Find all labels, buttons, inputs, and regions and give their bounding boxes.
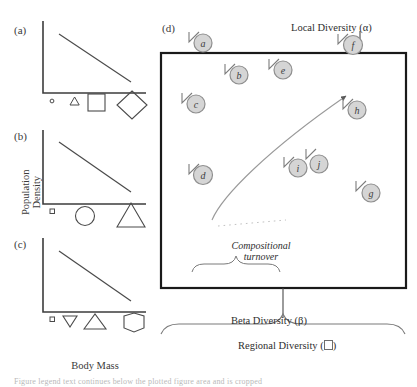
compositional-turnover-line1: Compositional xyxy=(232,240,291,251)
local-diversity-label: Local Diversity (α) xyxy=(291,22,372,33)
caption-strip: Figure legend text continues below the p… xyxy=(0,378,417,387)
community-letter: e xyxy=(281,65,286,76)
beta-diversity-label: Beta Diversity (β) xyxy=(231,315,307,326)
community-letter: c xyxy=(194,99,199,110)
panel-c-shape-triangle-up-medium xyxy=(84,314,106,329)
panel-c-plot xyxy=(43,238,146,332)
panel-b-shape-circle-medium xyxy=(76,207,95,226)
regional-diversity-text-suffix: ) xyxy=(333,340,337,351)
panel-a-shape-square-medium xyxy=(88,94,105,111)
panel-a-shape-circle-tiny xyxy=(50,99,54,103)
panel-c-shape-square-tiny xyxy=(50,317,55,322)
gamma-missing-glyph-icon xyxy=(324,340,333,350)
community-letter: a xyxy=(201,38,206,49)
x-axis-title: Body Mass xyxy=(40,360,150,371)
panel-c-shape-hexagon-large xyxy=(124,313,144,332)
panel-c-shape-triangle-down-small xyxy=(63,316,77,327)
community-letter: i xyxy=(297,163,300,174)
community-letter: g xyxy=(369,188,374,199)
panel-b-trend-line xyxy=(59,142,131,192)
community-letter: b xyxy=(237,70,242,81)
panel-b-shape-square-tiny xyxy=(50,209,55,214)
panel-b-plot xyxy=(43,130,146,227)
community-letter: h xyxy=(355,105,360,116)
compositional-turnover-label: Compositional turnover xyxy=(205,240,317,262)
panel-a-plot xyxy=(43,21,147,119)
community-node-f[interactable]: f xyxy=(338,34,363,55)
panel-a-trend-line xyxy=(59,34,131,82)
compositional-turnover-line2: turnover xyxy=(244,251,278,262)
panel-a-shape-triangle-small xyxy=(70,97,79,105)
regional-diversity-label: Regional Diversity () xyxy=(238,340,336,351)
caption-partial-text: Figure legend text continues below the p… xyxy=(14,378,262,386)
figure-container: (a) (b) (c) (d) Population Density Body … xyxy=(0,0,417,387)
regional-diversity-text-prefix: Regional Diversity ( xyxy=(238,340,324,351)
panel-d-svg: a b c e f h d xyxy=(150,0,417,387)
left-panels-svg xyxy=(0,0,160,360)
panel-b-shape-triangle-large xyxy=(117,203,145,227)
panel-c-trend-line xyxy=(59,251,131,301)
community-node-a[interactable]: a xyxy=(189,32,212,52)
panel-a-shape-diamond-large xyxy=(117,91,147,119)
